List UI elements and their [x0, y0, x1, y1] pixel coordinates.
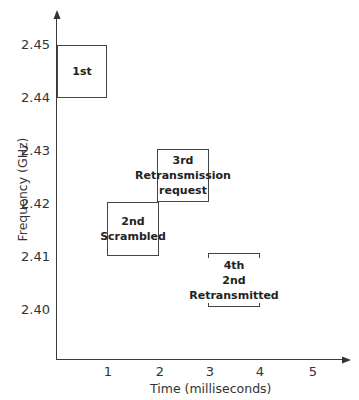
block-label: 3rd Retransmission request [135, 153, 231, 198]
y-axis-title: Frequency (GHz) [15, 135, 30, 245]
y-tick-label: 2.40 [10, 303, 50, 317]
block-label: 4th 2nd Retransmitted [189, 258, 279, 303]
block-4th-2nd-retransmitted: 4th 2nd Retransmitted [208, 253, 260, 307]
x-axis-title: Time (milliseconds) [150, 381, 270, 396]
y-tick-label: 2.45 [10, 38, 50, 52]
y-tick-label: 2.41 [10, 250, 50, 264]
x-axis-line [56, 359, 344, 360]
x-tick-label: 5 [303, 365, 323, 379]
block-1st: 1st [57, 45, 107, 98]
x-tick-label: 1 [98, 365, 118, 379]
x-tick-label: 3 [200, 365, 220, 379]
y-tick-label: 2.44 [10, 91, 50, 105]
y-axis-arrow-icon [52, 10, 62, 20]
block-3rd-retransmission-request: 3rd Retransmission request [157, 149, 209, 202]
x-tick-label: 2 [150, 365, 170, 379]
block-label: 1st [72, 64, 91, 79]
x-tick-label: 4 [250, 365, 270, 379]
x-axis-arrow-icon [341, 355, 351, 365]
block-label: 2nd Scrambled [100, 214, 166, 244]
block-2nd-scrambled: 2nd Scrambled [107, 202, 159, 256]
